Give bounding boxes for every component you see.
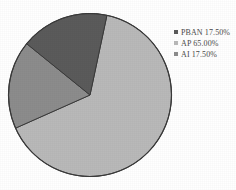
legend-swatch-ap-icon xyxy=(174,41,178,45)
pie-slice-group xyxy=(9,13,172,176)
legend-swatch-ai-icon xyxy=(174,52,178,56)
legend-label-ai: AI 17.50% xyxy=(181,49,217,60)
chart-legend: PBAN 17.50% AP 65.00% AI 17.50% xyxy=(174,27,236,60)
legend-swatch-pban-icon xyxy=(174,30,178,34)
legend-label-ap: AP 65.00% xyxy=(181,38,219,49)
legend-item-pban: PBAN 17.50% xyxy=(174,27,236,38)
legend-label-pban: PBAN 17.50% xyxy=(181,27,230,38)
pie-chart-svg xyxy=(0,0,180,190)
pie-chart-figure: PBAN 17.50% AP 65.00% AI 17.50% xyxy=(0,0,236,190)
legend-item-ap: AP 65.00% xyxy=(174,38,236,49)
pie-chart-plot-area xyxy=(0,0,180,190)
legend-item-ai: AI 17.50% xyxy=(174,49,236,60)
